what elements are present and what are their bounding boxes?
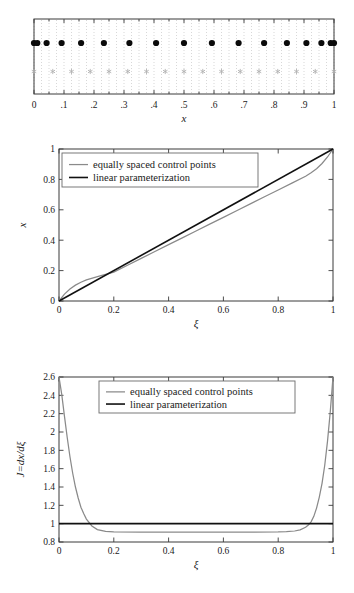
panel-bottom-y-tick-label: 1.6 <box>43 464 55 474</box>
linear-parameterization-markers <box>32 69 337 74</box>
top-x-tick-label: 1 <box>332 100 337 110</box>
panel-jacobian: 00.20.40.60.81 0.811.21.41.61.822.22.42.… <box>0 354 354 593</box>
middle-x-axis-title: ξ <box>194 317 199 330</box>
bottom-y-tick-labels: 0.811.21.41.61.822.22.42.6 <box>43 372 55 547</box>
top-x-tick-label: .4 <box>150 100 157 110</box>
panel-bottom-x-tick-label: 0 <box>57 546 62 556</box>
linear-param-star <box>88 69 93 74</box>
linear-param-star <box>332 69 337 74</box>
middle-legend-label-linear: linear parameterization <box>93 172 191 183</box>
control-point-dot <box>236 40 242 46</box>
panel-middle-y-tick-label: 0.6 <box>43 205 55 215</box>
linear-param-star <box>276 69 281 74</box>
linear-param-star <box>257 69 262 74</box>
control-point-dot <box>261 40 267 46</box>
figure-container: 0.1.2.3.4.5.6.7.8.91 x 00.20.40.60.81 00… <box>0 0 354 593</box>
control-point-dot <box>331 40 337 46</box>
panel-middle-y-tick-label: 0.4 <box>43 236 55 246</box>
bottom-panel-svg: 00.20.40.60.81 0.811.21.41.61.822.22.42.… <box>0 354 354 593</box>
middle-y-tick-labels: 00.20.40.60.81 <box>43 144 55 306</box>
linear-param-star <box>238 69 243 74</box>
linear-param-star <box>201 69 206 74</box>
panel-middle-x-tick-label: 0.4 <box>163 305 175 315</box>
middle-legend-label-equally-spaced: equally spaced control points <box>93 159 216 170</box>
control-point-dot <box>126 40 132 46</box>
control-point-dot <box>78 40 84 46</box>
linear-param-star <box>126 69 131 74</box>
panel-bottom-y-tick-label: 2.2 <box>43 409 55 419</box>
control-point-dot <box>318 40 324 46</box>
top-panel-svg: 0.1.2.3.4.5.6.7.8.91 x <box>0 0 354 126</box>
control-point-dot <box>181 40 187 46</box>
linear-param-star <box>313 69 318 74</box>
bottom-legend-label-linear: linear parameterization <box>130 399 228 410</box>
bottom-legend-label-equally-spaced: equally spaced control points <box>130 386 253 397</box>
control-point-dot <box>209 40 215 46</box>
middle-panel-svg: 00.20.40.60.81 00.20.40.60.81 ξ x equall… <box>0 126 354 354</box>
bottom-x-axis-title: ξ <box>194 558 199 571</box>
panel-middle-x-tick-label: 0.8 <box>272 305 284 315</box>
panel-bottom-x-tick-label: 0.4 <box>163 546 175 556</box>
linear-param-star <box>219 69 224 74</box>
panel-bottom-y-tick-label: 1.8 <box>43 446 55 456</box>
control-point-dot <box>59 40 65 46</box>
control-point-markers <box>31 40 337 46</box>
middle-x-tick-labels: 00.20.40.60.81 <box>57 305 336 315</box>
linear-param-star <box>182 69 187 74</box>
panel-middle-x-tick-label: 1 <box>331 305 336 315</box>
panel-bottom-x-tick-label: 1 <box>331 546 336 556</box>
panel-bottom-y-tick-label: 1 <box>50 519 55 529</box>
linear-param-star <box>144 69 149 74</box>
panel-bottom-x-tick-label: 0.8 <box>272 546 284 556</box>
top-x-tick-label: .6 <box>210 100 217 110</box>
top-x-tick-label: .7 <box>240 100 247 110</box>
bottom-x-tick-labels: 00.20.40.60.81 <box>57 546 336 556</box>
top-x-tick-label: .1 <box>60 100 67 110</box>
panel-bottom-y-tick-label: 1.4 <box>43 482 55 492</box>
top-x-tick-labels: 0.1.2.3.4.5.6.7.8.91 <box>32 100 337 110</box>
panel-bottom-y-tick-label: 2.4 <box>43 391 55 401</box>
panel-bottom-y-tick-label: 0.8 <box>43 537 55 547</box>
linear-param-star <box>107 69 112 74</box>
bottom-y-axis-title: J=dx/dξ <box>14 441 27 477</box>
panel-bottom-x-tick-label: 0.6 <box>217 546 229 556</box>
linear-param-star <box>32 69 37 74</box>
top-gridlines <box>34 20 334 93</box>
panel-middle-y-tick-label: 0.8 <box>43 175 55 185</box>
top-x-axis-title: x <box>181 112 187 124</box>
middle-legend: equally spaced control points linear par… <box>62 153 258 187</box>
control-point-dot <box>153 40 159 46</box>
top-x-tick-label: .9 <box>300 100 307 110</box>
control-point-dot <box>44 40 50 46</box>
linear-param-star <box>163 69 168 74</box>
panel-bottom-x-tick-label: 0.2 <box>108 546 120 556</box>
panel-middle-y-tick-label: 0 <box>50 296 55 306</box>
top-x-tick-label: .3 <box>120 100 127 110</box>
middle-y-axis-title: x <box>16 222 28 228</box>
top-x-tick-label: .5 <box>180 100 187 110</box>
linear-param-star <box>294 69 299 74</box>
control-point-dot <box>101 40 107 46</box>
panel-bottom-y-tick-label: 1.2 <box>43 501 55 511</box>
panel-bottom-y-tick-label: 2 <box>50 427 55 437</box>
panel-control-point-distribution: 0.1.2.3.4.5.6.7.8.91 x <box>0 0 354 126</box>
panel-middle-x-tick-label: 0.6 <box>217 305 229 315</box>
linear-param-star <box>51 69 56 74</box>
panel-middle-y-tick-label: 0.2 <box>43 266 55 276</box>
panel-parameterization-map: 00.20.40.60.81 00.20.40.60.81 ξ x equall… <box>0 126 354 354</box>
control-point-dot <box>34 40 40 46</box>
bottom-legend: equally spaced control points linear par… <box>99 381 295 413</box>
panel-bottom-y-tick-label: 2.6 <box>43 372 55 382</box>
panel-middle-x-tick-label: 0.2 <box>108 305 120 315</box>
top-x-tick-label: 0 <box>32 100 37 110</box>
top-x-tick-label: .8 <box>270 100 277 110</box>
control-point-dot <box>284 40 290 46</box>
linear-param-star <box>69 69 74 74</box>
panel-middle-x-tick-label: 0 <box>57 305 62 315</box>
panel-middle-y-tick-label: 1 <box>50 144 55 154</box>
top-x-tick-label: .2 <box>90 100 97 110</box>
control-point-dot <box>303 40 309 46</box>
